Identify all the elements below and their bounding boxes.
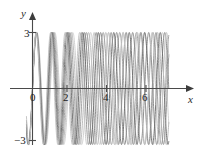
y-axis-arrowhead (29, 12, 36, 20)
y-tick-label-3: 3 (24, 28, 30, 39)
x-tick-label-2: 2 (63, 92, 69, 103)
x-tick-label-0: 0 (30, 92, 36, 103)
x-tick-label-4: 4 (103, 92, 109, 103)
y-axis-label: y (21, 8, 26, 19)
x-axis-label: x (188, 94, 193, 105)
x-tick-label-6: 6 (142, 92, 148, 103)
sinusoid-family-figure: y x 3 −3 0 2 4 6 (0, 0, 202, 162)
y-tick-label-minus-3: −3 (14, 135, 26, 146)
graph-canvas (0, 0, 202, 162)
x-axis-arrowhead (186, 85, 194, 92)
